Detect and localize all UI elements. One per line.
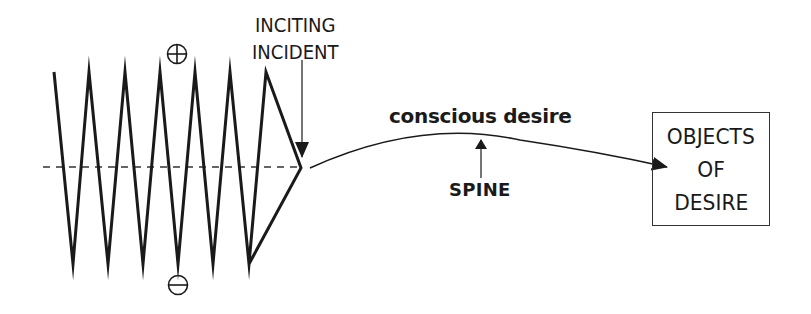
inciting-incident-label: INCITING INCIDENT bbox=[252, 12, 339, 66]
objects-of-desire-box: OBJECTS OF DESIRE bbox=[652, 112, 770, 226]
spine-label: SPINE bbox=[449, 181, 511, 199]
objects-label-line1: OBJECTS bbox=[667, 120, 755, 153]
spine-curve-arrow bbox=[310, 133, 667, 168]
inciting-label-line2: INCIDENT bbox=[252, 39, 339, 66]
conscious-desire-label: conscious desire bbox=[389, 106, 572, 126]
inciting-label-line1: INCITING bbox=[252, 12, 339, 39]
objects-label-line2: OF bbox=[697, 153, 725, 186]
objects-label-line3: DESIRE bbox=[674, 186, 748, 219]
value-oscillation-zigzag bbox=[54, 72, 301, 264]
positive-charge-icon bbox=[168, 45, 187, 64]
